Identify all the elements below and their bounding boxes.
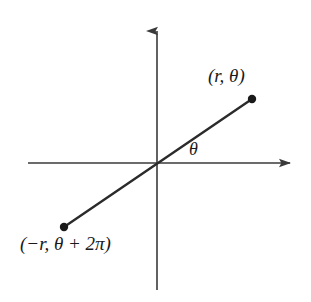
polar-coordinates-figure: (r, θ) (−r, θ + 2π) θ — [0, 0, 311, 302]
upper-point-label: (r, θ) — [208, 66, 245, 85]
upper-right-point — [248, 95, 256, 103]
lower-point-label: (−r, θ + 2π) — [20, 234, 111, 253]
angle-theta-label: θ — [189, 140, 198, 158]
diagram-canvas — [0, 0, 311, 302]
lower-left-point — [60, 223, 68, 231]
